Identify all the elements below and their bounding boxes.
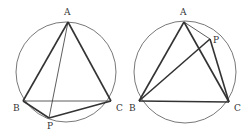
segment-ap bbox=[49, 22, 68, 118]
segment-bc bbox=[139, 101, 229, 102]
point-label-b: B bbox=[13, 103, 20, 113]
segment-ab bbox=[139, 22, 184, 101]
point-label-c: C bbox=[234, 103, 241, 113]
figure-left: ABCP bbox=[13, 7, 123, 131]
segment-ac bbox=[68, 22, 111, 101]
point-label-c: C bbox=[116, 103, 123, 113]
segment-ab bbox=[23, 22, 68, 101]
point-label-a: A bbox=[179, 7, 187, 17]
point-label-p: P bbox=[47, 121, 53, 131]
geometry-diagram: ABCPABCP bbox=[0, 0, 249, 138]
figure-right: ABCP bbox=[129, 7, 241, 123]
point-label-a: A bbox=[63, 7, 71, 17]
point-label-b: B bbox=[129, 103, 136, 113]
segment-bp bbox=[23, 101, 49, 118]
segment-bp bbox=[139, 39, 210, 101]
segment-pc bbox=[210, 39, 229, 102]
segment-pc bbox=[49, 101, 111, 118]
point-label-p: P bbox=[213, 35, 219, 45]
segment-ac bbox=[184, 22, 229, 102]
